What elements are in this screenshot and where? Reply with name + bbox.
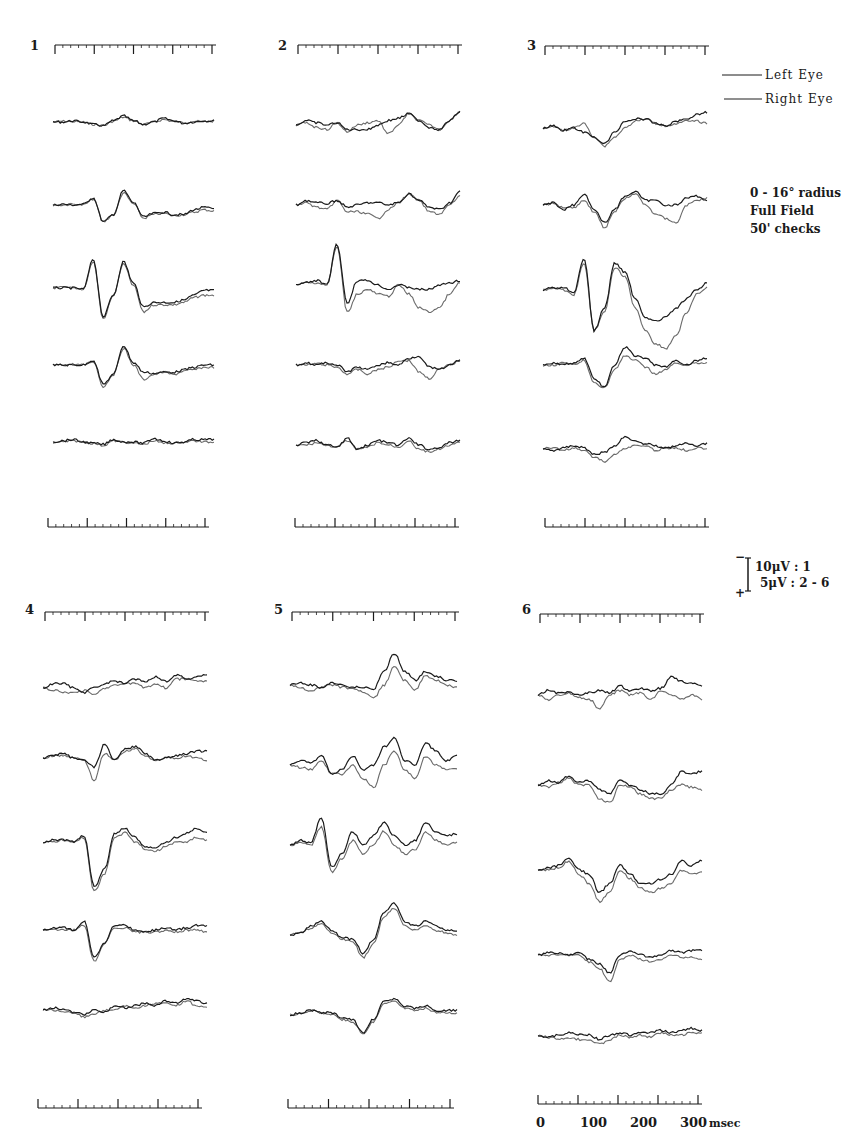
right-eye-trace [290, 909, 457, 959]
top-time-ruler [545, 46, 709, 55]
panels: 123456 [25, 38, 709, 1108]
top-time-ruler [540, 614, 704, 623]
trace-pair [290, 737, 457, 787]
legend-right-eye-label: Right Eye [765, 92, 834, 106]
right-eye-trace [290, 667, 457, 698]
panel-5: 5 [274, 602, 459, 1108]
trace-pair [538, 676, 702, 709]
bottom-time-ruler [538, 1095, 702, 1104]
left-eye-trace [53, 115, 214, 126]
trace-pair [543, 260, 707, 350]
left-eye-trace [538, 771, 702, 795]
top-time-ruler [55, 45, 216, 54]
panel-1: 1 [30, 38, 216, 527]
right-eye-trace [543, 194, 707, 228]
scale-label-panel-1: 10μV : 1 [755, 560, 811, 574]
trace-pair [296, 191, 460, 219]
trace-pair [43, 744, 207, 781]
right-eye-trace [543, 119, 707, 147]
left-eye-trace [538, 676, 702, 696]
right-eye-trace [538, 861, 702, 902]
panel-6: 6 [522, 602, 704, 1104]
left-eye-trace [543, 436, 707, 454]
trace-pair [543, 347, 707, 388]
right-eye-trace [538, 954, 702, 982]
right-eye-trace [53, 117, 214, 126]
trace-pair [538, 1027, 702, 1043]
time-tick-100: 100 [580, 1115, 607, 1130]
bottom-time-ruler [295, 518, 459, 527]
bottom-time-ruler [545, 518, 709, 527]
top-time-ruler [45, 612, 209, 621]
trace-pair [538, 771, 702, 802]
time-tick-0: 0 [536, 1115, 545, 1130]
trace-pair [53, 438, 214, 446]
trace-pair [43, 674, 207, 694]
panel-label: 6 [522, 602, 531, 617]
condition-field: Full Field [750, 204, 815, 218]
right-eye-trace [290, 1001, 457, 1034]
left-eye-trace [290, 654, 457, 689]
trace-pair [290, 818, 457, 872]
left-eye-trace [43, 828, 207, 886]
condition-radius: 0 - 16° radius [750, 186, 841, 200]
vep-figure: 123456 Left Eye Right Eye 0 - 16° radius… [0, 0, 858, 1146]
trace-pair [296, 244, 460, 312]
trace-pair [53, 260, 214, 318]
stimulus-conditions: 0 - 16° radius Full Field 50' checks [750, 186, 841, 236]
left-eye-trace [543, 347, 707, 387]
top-time-ruler [292, 612, 459, 621]
right-eye-trace [296, 193, 460, 219]
left-eye-trace [290, 818, 457, 866]
trace-pair [296, 356, 460, 379]
left-eye-trace [296, 191, 460, 209]
trace-pair [290, 903, 457, 958]
right-eye-trace [43, 748, 207, 781]
trace-pair [290, 654, 457, 698]
left-eye-trace [290, 998, 457, 1033]
time-tick-300: 300 [680, 1115, 707, 1130]
trace-pair [538, 950, 702, 982]
panel-label: 5 [274, 602, 283, 617]
top-time-ruler [298, 45, 462, 54]
panel-label: 4 [25, 602, 34, 617]
legend: Left Eye Right Eye [722, 68, 834, 106]
left-eye-trace [543, 191, 707, 222]
left-eye-trace [538, 950, 702, 973]
time-unit: msec [709, 1117, 741, 1130]
trace-pair [296, 111, 460, 133]
panel-label: 2 [278, 38, 287, 53]
right-eye-trace [290, 751, 457, 788]
right-eye-trace [296, 360, 460, 380]
left-eye-trace [290, 737, 457, 774]
bottom-time-ruler [38, 1099, 202, 1108]
panel-2: 2 [278, 38, 462, 527]
right-eye-trace [43, 678, 207, 695]
trace-pair [543, 191, 707, 228]
trace-pair [296, 438, 460, 453]
right-eye-trace [296, 248, 460, 313]
trace-pair [43, 828, 207, 890]
right-eye-trace [543, 445, 707, 462]
right-eye-trace [43, 832, 207, 891]
trace-pair [53, 347, 214, 388]
right-eye-trace [538, 1032, 702, 1043]
right-eye-trace [43, 1001, 207, 1018]
trace-pair [43, 921, 207, 961]
right-eye-trace [53, 192, 214, 222]
bottom-time-ruler [288, 1099, 454, 1108]
right-eye-trace [538, 778, 702, 802]
right-eye-trace [53, 262, 214, 318]
trace-pair [290, 998, 457, 1033]
scale-minus: − [735, 550, 745, 564]
time-tick-200: 200 [630, 1115, 657, 1130]
condition-checks: 50' checks [750, 222, 821, 236]
trace-pair [53, 190, 214, 222]
right-eye-trace [543, 356, 707, 388]
right-eye-trace [543, 264, 707, 349]
time-axis-labels: 0 100 200 300 msec [536, 1115, 741, 1130]
left-eye-trace [53, 260, 214, 317]
left-eye-trace [296, 244, 460, 303]
scale-label-panels-2-6: 5μV : 2 - 6 [760, 576, 829, 590]
trace-pair [543, 112, 707, 147]
